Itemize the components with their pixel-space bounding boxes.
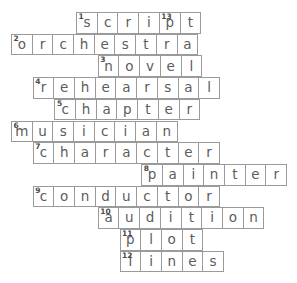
crossword-cell[interactable]: l [181,55,203,77]
crossword-cell[interactable]: t [135,34,157,56]
crossword-cell[interactable]: r [136,77,158,99]
crossword-cell[interactable]: c [136,186,158,208]
crossword-cell[interactable]: l [140,229,162,251]
crossword-cell[interactable]: n [161,251,183,273]
crossword-row-musician: 6musician [11,121,178,143]
crossword-cell[interactable]: h [53,142,75,164]
crossword-letter: o [184,190,192,207]
crossword-cell[interactable]: s [157,77,179,99]
crossword-cell[interactable]: v [139,55,161,77]
crossword-cell[interactable]: u [32,121,54,143]
crossword-cell[interactable]: a [162,164,184,186]
crossword-cell[interactable]: p [116,99,138,121]
crossword-cell[interactable]: i [73,121,95,143]
crossword-cell[interactable]: 5c [54,99,76,121]
crossword-cell[interactable]: o [161,229,183,251]
crossword-cell[interactable]: t [180,12,202,34]
crossword-cell[interactable]: n [243,207,265,229]
crossword-cell[interactable]: 7c [33,142,55,164]
crossword-cell[interactable]: o [178,186,200,208]
crossword-cell[interactable]: c [52,34,74,56]
crossword-cell[interactable]: i [160,207,182,229]
crossword-row-rehearsal: 4rehearsal [33,77,220,99]
crossword-cell[interactable]: r [156,34,178,56]
crossword-cell[interactable]: n [156,121,178,143]
crossword-letter: s [210,255,217,272]
crossword-cell[interactable]: s [52,121,74,143]
crossword-cell[interactable]: 10a [98,207,120,229]
crossword-cell[interactable]: o [222,207,244,229]
crossword-cell[interactable]: e [53,77,75,99]
crossword-cell[interactable]: 9c [33,186,55,208]
crossword-cell[interactable]: e [245,164,267,186]
crossword-cell[interactable]: i [114,121,136,143]
crossword-cell[interactable]: t [137,99,159,121]
crossword-cell[interactable]: i [140,251,162,273]
crossword-cell[interactable]: r [198,186,220,208]
crossword-cell[interactable]: t [224,164,246,186]
crossword-cell[interactable]: t [157,186,179,208]
crossword-row-audition: 10audition [98,207,265,229]
crossword-cell[interactable]: h [73,34,95,56]
crossword-cell[interactable]: n [203,164,225,186]
crossword-cell[interactable]: a [74,142,96,164]
crossword-cell[interactable]: r [95,142,117,164]
crossword-cell[interactable]: u [115,186,137,208]
crossword-cell[interactable]: 2o [11,34,33,56]
crossword-cell[interactable]: e [158,99,180,121]
crossword-cell[interactable]: o [53,186,75,208]
crossword-cell[interactable]: h [74,77,96,99]
crossword-cell[interactable]: l [198,77,220,99]
crossword-cell[interactable]: 6m [11,121,33,143]
crossword-cell[interactable]: 3n [98,55,120,77]
crossword-letter: n [104,60,113,77]
crossword-cell[interactable]: c [94,121,116,143]
crossword-letter: c [60,38,67,55]
crossword-letter: r [144,81,150,98]
crossword-cell[interactable]: a [178,77,200,99]
crossword-cell[interactable]: r [198,142,220,164]
crossword-cell[interactable]: i [138,12,160,34]
crossword-cell[interactable]: 13p [159,12,181,34]
crossword-cell[interactable]: t [181,207,203,229]
crossword-cell[interactable]: e [95,77,117,99]
crossword-letter: c [143,190,150,207]
crossword-letter: e [60,81,68,98]
crossword-cell[interactable]: i [201,207,223,229]
crossword-cell[interactable]: o [118,55,140,77]
crossword-cell[interactable]: t [157,142,179,164]
clue-number: 12 [122,252,132,260]
crossword-cell[interactable]: e [160,55,182,77]
crossword-cell[interactable]: 4r [33,77,55,99]
crossword-cell[interactable]: h [75,99,97,121]
crossword-cell[interactable]: e [178,142,200,164]
crossword-cell[interactable]: r [32,34,54,56]
crossword-cell[interactable]: 8p [141,164,163,186]
crossword-cell[interactable]: d [95,186,117,208]
crossword-cell[interactable]: n [74,186,96,208]
crossword-cell[interactable]: 1s [76,12,98,34]
crossword-cell[interactable]: c [97,12,119,34]
crossword-letter: s [122,38,129,55]
crossword-cell[interactable]: e [94,34,116,56]
crossword-cell[interactable]: s [202,251,224,273]
crossword-cell[interactable]: r [117,12,139,34]
crossword-cell[interactable]: 12l [120,251,142,273]
crossword-cell[interactable]: a [115,77,137,99]
crossword-cell[interactable]: a [135,121,157,143]
crossword-cell[interactable]: a [177,34,199,56]
crossword-cell[interactable]: a [96,99,118,121]
crossword-cell[interactable]: i [183,164,205,186]
crossword-cell[interactable]: e [182,251,204,273]
crossword-row-novel: 3novel [98,55,202,77]
crossword-cell[interactable]: t [182,229,204,251]
crossword-cell[interactable]: c [136,142,158,164]
crossword-cell[interactable]: s [114,34,136,56]
crossword-cell[interactable]: a [115,142,137,164]
crossword-letter: t [165,190,170,207]
crossword-cell[interactable]: r [179,99,201,121]
crossword-cell[interactable]: d [139,207,161,229]
crossword-cell[interactable]: r [265,164,287,186]
crossword-cell[interactable]: 11p [120,229,142,251]
crossword-cell[interactable]: u [118,207,140,229]
